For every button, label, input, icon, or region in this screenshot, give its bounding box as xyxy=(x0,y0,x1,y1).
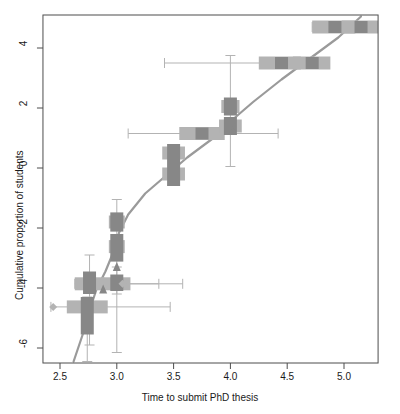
x-tick-label: 4.0 xyxy=(219,371,241,382)
y-axis-title: Cumulative proportion of students xyxy=(14,150,25,300)
y-tick-label: 2 xyxy=(17,94,28,114)
y-direction-box xyxy=(110,234,123,262)
x-tick-label: 2.5 xyxy=(49,371,71,382)
y-direction-box xyxy=(167,144,180,162)
y-direction-box xyxy=(328,21,341,33)
x-tick-label: 5.0 xyxy=(333,371,355,382)
x-axis-title: Time to submit PhD thesis xyxy=(0,392,400,403)
bivariate-boxplot-chart xyxy=(0,0,400,414)
y-direction-box xyxy=(275,57,288,69)
y-direction-box xyxy=(355,21,368,33)
x-tick-label: 4.5 xyxy=(276,371,298,382)
x-tick-label: 3.0 xyxy=(106,371,128,382)
y-tick-label: -6 xyxy=(17,334,28,354)
y-direction-box xyxy=(224,98,237,116)
y-direction-box xyxy=(110,212,123,231)
y-tick-label: 4 xyxy=(17,34,28,54)
outlier-diamond-marker xyxy=(49,303,57,311)
y-direction-box xyxy=(196,128,209,140)
y-direction-box xyxy=(167,162,180,186)
y-direction-box xyxy=(83,272,96,295)
y-direction-box xyxy=(306,57,319,69)
x-tick-label: 3.5 xyxy=(163,371,185,382)
y-direction-box xyxy=(81,297,94,335)
chart-container: 2.53.03.54.04.55.0420-2-4-6 Cumulative p… xyxy=(0,0,400,414)
